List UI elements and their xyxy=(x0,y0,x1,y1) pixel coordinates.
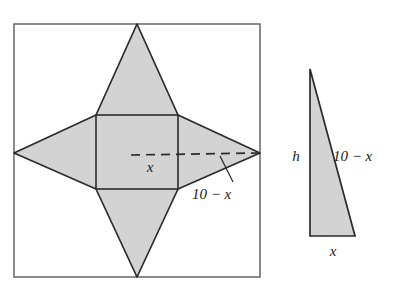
geometry-figure: x 10 − x h 10 − x x xyxy=(0,0,410,289)
inner-square-outline xyxy=(96,115,178,189)
label-triangle-base: x xyxy=(329,243,337,259)
label-flap-hypotenuse: 10 − x xyxy=(192,186,232,202)
label-triangle-height: h xyxy=(292,148,300,164)
right-figure-group: h 10 − x x xyxy=(292,69,372,259)
figure-canvas: x 10 − x h 10 − x x xyxy=(0,0,410,289)
left-figure-group: x 10 − x xyxy=(14,24,260,277)
label-inner-square-side: x xyxy=(146,159,154,175)
label-triangle-hypotenuse: 10 − x xyxy=(333,148,373,164)
